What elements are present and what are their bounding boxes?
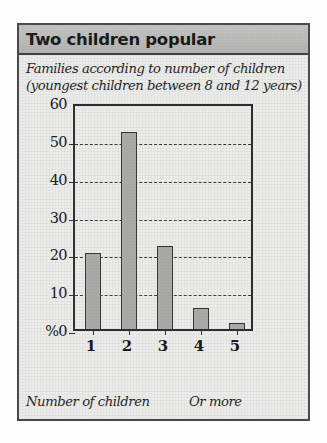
x-axis-title: Number of children <box>26 394 150 409</box>
bars-group <box>75 106 251 329</box>
bar <box>121 132 138 329</box>
x-tick-label: 2 <box>122 337 132 355</box>
y-tick-label: 60 <box>50 96 67 112</box>
plot-frame <box>73 104 253 331</box>
x-tick <box>165 329 166 335</box>
y-tick <box>69 333 75 334</box>
y-axis-labels: %0102030405060 <box>19 96 71 393</box>
screenshot-root: Two children popular Families according … <box>0 0 327 443</box>
bar <box>157 246 174 329</box>
y-tick-label: 40 <box>50 172 67 188</box>
y-tick-label: 30 <box>50 210 67 226</box>
or-more-note: Or more <box>189 394 242 409</box>
chart-title-bar: Two children popular <box>19 25 308 55</box>
x-tick-label: 3 <box>158 337 168 355</box>
x-tick <box>201 329 202 335</box>
y-tick-label: %0 <box>45 323 67 339</box>
bar <box>229 323 246 329</box>
y-tick-label: 20 <box>50 247 67 263</box>
bar <box>193 308 210 329</box>
subtitle-line-1: Families according to number of children <box>26 60 302 77</box>
x-tick <box>237 329 238 335</box>
chart-subtitle: Families according to number of children… <box>19 55 308 96</box>
bar <box>85 253 102 329</box>
x-axis-labels: 12345 <box>73 337 253 359</box>
y-tick-label: 10 <box>50 285 67 301</box>
chart-footer: Number of children Or more <box>19 393 308 419</box>
x-tick-label: 1 <box>86 337 96 355</box>
x-tick-label: 5 <box>230 337 240 355</box>
x-tick-label: 4 <box>194 337 204 355</box>
x-tick <box>93 329 94 335</box>
plot-wrapper: %0102030405060 12345 <box>19 96 308 393</box>
y-tick-label: 50 <box>50 134 67 150</box>
infographic-card: Two children popular Families according … <box>17 23 310 421</box>
x-tick <box>129 329 130 335</box>
chart-title: Two children popular <box>26 30 215 49</box>
chart-area: %0102030405060 12345 <box>19 96 308 393</box>
subtitle-line-2: (youngest children between 8 and 12 year… <box>26 77 302 94</box>
